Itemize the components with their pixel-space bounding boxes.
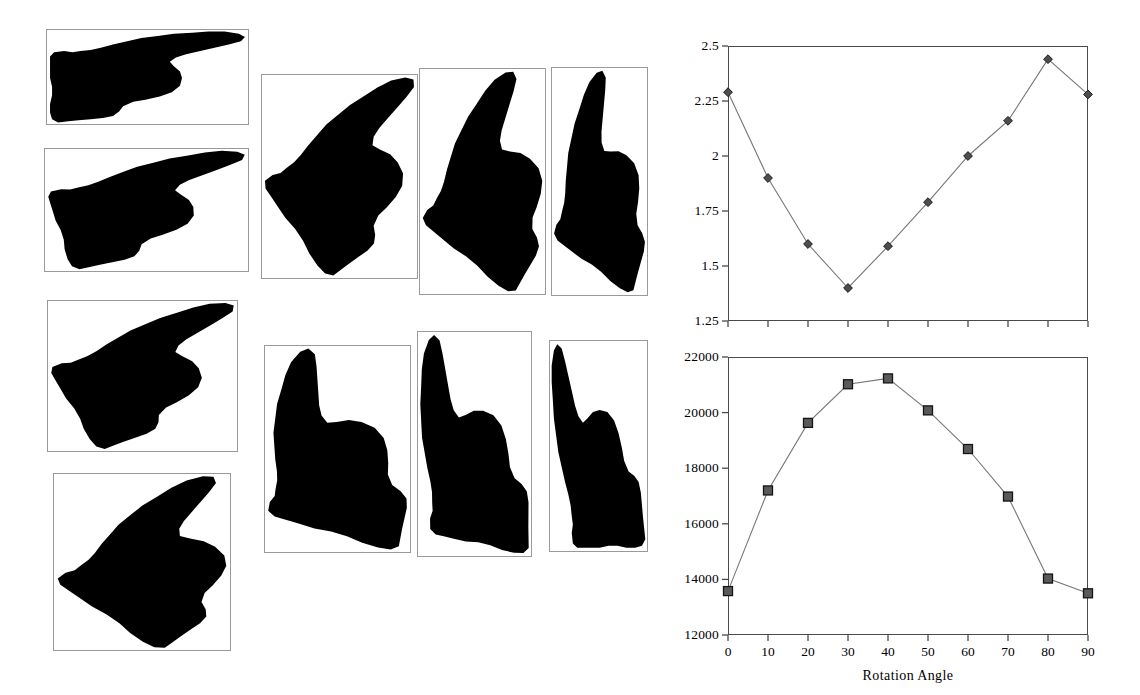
y-axis-tick-label: 1.25 (695, 313, 719, 329)
hand-rotation-70 (264, 345, 411, 553)
hand-silhouette (54, 474, 230, 650)
x-axis-tick-label: 0 (725, 644, 732, 660)
x-axis-tick-label: 90 (1081, 644, 1095, 660)
data-point-marker (884, 374, 893, 383)
hand-rotation-60 (551, 67, 648, 296)
y-axis-tick-label: 2.25 (695, 93, 719, 109)
hand-rotation-40 (53, 473, 231, 651)
data-point-marker (1004, 492, 1013, 501)
bottom-chart-series (728, 357, 1088, 635)
hand-rotation-50 (419, 68, 546, 295)
hand-rotation-80 (417, 331, 532, 557)
x-axis-tick-label: 70 (1001, 644, 1015, 660)
x-axis-title: Rotation Angle (728, 668, 1088, 684)
hand-silhouette (418, 332, 531, 556)
data-point-marker (1044, 574, 1053, 583)
y-axis-tick-label: 12000 (684, 627, 719, 643)
y-axis-tick-label: 2 (712, 148, 719, 164)
hand-silhouette (47, 30, 248, 124)
x-axis-tick-label: 20 (801, 644, 815, 660)
y-axis-tick-label: 14000 (684, 571, 719, 587)
y-axis-tick-label: 16000 (684, 516, 719, 532)
x-axis-tick-label: 50 (921, 644, 935, 660)
data-point-marker (724, 88, 733, 97)
hand-silhouette (420, 69, 545, 294)
x-axis-tick-label: 10 (761, 644, 775, 660)
hand-silhouette (265, 346, 410, 552)
y-axis-tick-label: 1.5 (702, 258, 719, 274)
series-line (728, 378, 1088, 593)
data-point-marker (724, 587, 733, 596)
x-axis-tick-label: 80 (1041, 644, 1055, 660)
y-axis-tick-label: 20000 (684, 405, 719, 421)
hand-rotation-10 (44, 148, 249, 272)
hand-silhouette (552, 68, 647, 295)
series-line (728, 59, 1088, 288)
hand-rotation-20 (47, 300, 238, 452)
hand-rotation-0 (46, 29, 249, 125)
data-point-marker (844, 380, 853, 389)
hand-rotation-90 (549, 340, 648, 552)
data-point-marker (924, 406, 933, 415)
hand-silhouette (45, 149, 248, 271)
top-chart-series (728, 46, 1088, 321)
x-axis-tick-label: 60 (961, 644, 975, 660)
y-axis-tick-label: 2.5 (702, 38, 719, 54)
hand-silhouette (550, 341, 647, 551)
data-point-marker (764, 486, 773, 495)
y-axis-tick-label: 18000 (684, 460, 719, 476)
data-point-marker (764, 174, 773, 183)
data-point-marker (804, 418, 813, 427)
hand-silhouette (262, 75, 417, 278)
figure-canvas: 1.251.51.7522.252.5 12000140001600018000… (0, 0, 1140, 695)
data-point-marker (964, 445, 973, 454)
hand-rotation-30 (261, 74, 418, 279)
top-chart: 1.251.51.7522.252.5 (676, 22, 1138, 324)
data-point-marker (1084, 589, 1093, 598)
x-axis-tick-label: 40 (881, 644, 895, 660)
hand-silhouette (48, 301, 237, 451)
bottom-chart: 1200014000160001800020000220000102030405… (676, 335, 1138, 682)
x-axis-tick-label: 30 (841, 644, 855, 660)
chart-stack: 1.251.51.7522.252.5 12000140001600018000… (676, 22, 1138, 682)
y-axis-tick-label: 1.75 (695, 203, 719, 219)
y-axis-tick-label: 22000 (684, 349, 719, 365)
